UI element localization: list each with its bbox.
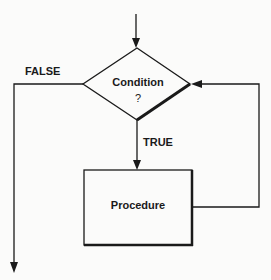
procedure-label: Procedure bbox=[111, 200, 165, 211]
false-label: FALSE bbox=[25, 66, 60, 77]
false-branch-arrow bbox=[10, 84, 83, 273]
true-branch-arrow bbox=[133, 120, 141, 170]
loop-back-arrow bbox=[191, 80, 259, 207]
condition-question-mark: ? bbox=[135, 93, 141, 104]
true-label: TRUE bbox=[143, 137, 173, 148]
entry-arrow bbox=[132, 14, 140, 48]
flowchart bbox=[0, 0, 271, 280]
condition-label: Condition bbox=[112, 77, 163, 88]
